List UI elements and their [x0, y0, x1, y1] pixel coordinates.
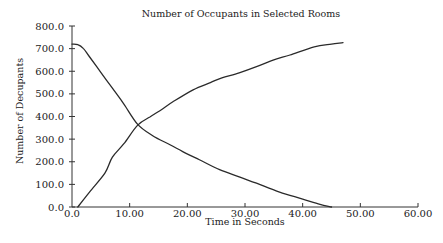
x-tick-label: 30.00	[231, 208, 260, 219]
y-tick-label: 600.0	[35, 66, 64, 77]
y-tick-label: 400.0	[35, 111, 64, 122]
y-tick-label: 200.0	[35, 156, 64, 167]
y-tick-label: 100.0	[35, 179, 64, 190]
chart-title: Number of Occupants in Selected Rooms	[142, 8, 341, 19]
y-tick-label: 300.0	[35, 134, 64, 145]
y-tick-label: 700.0	[35, 43, 64, 54]
series-layer	[72, 43, 343, 207]
x-tick-label: 10.00	[115, 208, 144, 219]
y-tick-label: 0.0	[48, 202, 64, 213]
x-ticks: 0.010.0020.0030.0040.0050.0060.00	[64, 203, 432, 219]
x-tick-label: 50.00	[346, 208, 375, 219]
x-tick-label: 60.00	[404, 208, 433, 219]
y-ticks: 0.0100.0200.0300.0400.0500.0600.0700.080…	[35, 21, 75, 213]
x-tick-label: 20.00	[173, 208, 202, 219]
x-tick-label: 40.00	[288, 208, 317, 219]
y-tick-label: 500.0	[35, 88, 64, 99]
line-chart: Number of Occupants in Selected Rooms Nu…	[0, 0, 443, 243]
series-line-increasing	[78, 43, 343, 207]
x-tick-label: 0.0	[64, 208, 80, 219]
series-line-decreasing	[72, 44, 332, 207]
y-axis-label: Number of Decupants	[14, 58, 25, 164]
y-tick-label: 800.0	[35, 21, 64, 32]
